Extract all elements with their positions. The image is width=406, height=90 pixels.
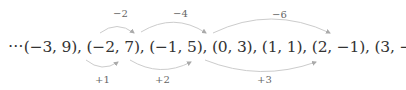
top-arc-2 — [141, 22, 206, 33]
top-label-3: −6 — [272, 9, 287, 20]
top-arc-1 — [100, 27, 134, 34]
top-label-2: −4 — [173, 8, 188, 19]
bottom-label-3: +3 — [257, 74, 272, 85]
top-arc-3 — [213, 19, 330, 33]
top-label-1: −2 — [113, 8, 128, 19]
bottom-arc-2 — [130, 60, 191, 70]
bottom-label-2: +2 — [155, 74, 170, 85]
bottom-label-1: +1 — [95, 74, 110, 85]
bottom-arc-1 — [86, 60, 118, 67]
sequence-text: ⋯(−3, 9), (−2, 7), (−1, 5), (0, 3), (1, … — [0, 34, 406, 56]
bottom-arc-3 — [205, 60, 316, 72]
